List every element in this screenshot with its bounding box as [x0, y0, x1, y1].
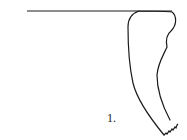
figure-number-label: 1. — [107, 111, 116, 125]
pottery-profile-drawing — [0, 0, 187, 140]
break-edge-zigzag — [164, 124, 178, 135]
sherd-profile-outline — [128, 11, 176, 135]
